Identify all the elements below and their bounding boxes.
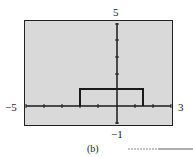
x-min-label: −5 (5, 102, 17, 113)
y-min-label: −1 (111, 129, 123, 140)
x-max-label: 3 (178, 102, 184, 113)
graph-plot (0, 0, 193, 158)
figure-caption: (b) (87, 143, 99, 154)
step-function-curve (80, 89, 143, 106)
y-max-label: 5 (113, 7, 119, 18)
